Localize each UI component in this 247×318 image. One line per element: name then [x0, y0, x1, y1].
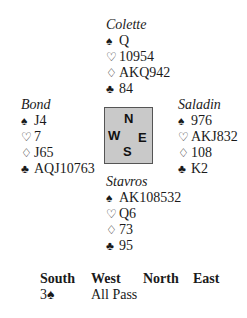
hand-south: Stavros ♠AK108532 ♡Q6 ♢73 ♣95 [106, 174, 181, 254]
north-clubs: 84 [119, 81, 133, 96]
compass-south: S [123, 144, 132, 159]
bidding-header-north: North [143, 271, 179, 287]
heart-icon: ♡ [106, 206, 119, 222]
diamond-icon: ♢ [106, 65, 119, 81]
club-icon: ♣ [106, 81, 119, 97]
east-clubs: K2 [191, 161, 208, 176]
hand-west: Bond ♠J4 ♡7 ♢J65 ♣AQJ10763 [21, 97, 95, 177]
bidding-header-west: West [91, 271, 121, 287]
diamond-icon: ♢ [21, 145, 34, 161]
west-spades: J4 [34, 113, 46, 128]
west-clubs: AQJ10763 [34, 161, 95, 176]
club-icon: ♣ [106, 238, 119, 254]
north-diamonds: AKQ942 [119, 65, 170, 80]
south-spades: AK108532 [119, 190, 181, 205]
player-name-north: Colette [106, 17, 170, 33]
hand-east: Saladin ♠976 ♡AKJ832 ♢108 ♣K2 [178, 97, 238, 177]
player-name-south: Stavros [106, 174, 181, 190]
heart-icon: ♡ [178, 129, 191, 145]
bid-south: 3♠ [40, 287, 54, 303]
player-name-east: Saladin [178, 97, 238, 113]
spade-icon: ♠ [106, 33, 119, 49]
east-hearts: AKJ832 [191, 129, 238, 144]
east-spades: 976 [191, 113, 212, 128]
compass-box: N W E S [104, 107, 153, 164]
player-name-west: Bond [21, 97, 95, 113]
compass-east: E [138, 130, 147, 145]
west-hearts: 7 [34, 129, 41, 144]
south-clubs: 95 [119, 238, 133, 253]
heart-icon: ♡ [106, 49, 119, 65]
spade-icon: ♠ [106, 190, 119, 206]
east-diamonds: 108 [191, 145, 212, 160]
compass-north: N [124, 111, 133, 126]
heart-icon: ♡ [21, 129, 34, 145]
diamond-icon: ♢ [178, 145, 191, 161]
compass-west: W [108, 128, 120, 143]
spade-icon: ♠ [178, 113, 191, 129]
bidding-header-south: South [40, 271, 75, 287]
bidding-header-east: East [193, 271, 219, 287]
spade-icon: ♠ [21, 113, 34, 129]
west-diamonds: J65 [34, 145, 53, 160]
north-hearts: 10954 [119, 49, 154, 64]
hand-north: Colette ♠Q ♡10954 ♢AKQ942 ♣84 [106, 17, 170, 97]
diamond-icon: ♢ [106, 222, 119, 238]
bid-west: All Pass [91, 287, 137, 303]
south-diamonds: 73 [119, 222, 133, 237]
south-hearts: Q6 [119, 206, 136, 221]
north-spades: Q [119, 33, 129, 48]
club-icon: ♣ [21, 161, 34, 177]
